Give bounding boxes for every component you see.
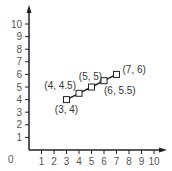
y-tick-label: 8 — [16, 44, 22, 55]
x-tick-label: 5 — [89, 156, 95, 167]
y-axis-arrow-icon — [27, 5, 32, 13]
x-tick-label: 7 — [114, 156, 120, 167]
data-point-label: (3, 4) — [55, 104, 78, 115]
y-tick-label: 2 — [16, 119, 22, 130]
x-tick-label: 1 — [39, 156, 45, 167]
line-chart: 1234567891012345678910 (3, 4)(4, 4.5)(5,… — [0, 0, 172, 171]
y-tick-label: 6 — [16, 69, 22, 80]
origin-label: 0 — [8, 154, 14, 165]
x-tick-label: 8 — [126, 156, 132, 167]
square-marker-icon — [89, 84, 95, 90]
square-marker-icon — [76, 90, 82, 96]
x-tick-label: 10 — [148, 156, 160, 167]
y-tick-label: 10 — [11, 19, 23, 30]
x-tick-label: 6 — [101, 156, 107, 167]
ticks: 1234567891012345678910 — [11, 19, 160, 168]
y-tick-label: 9 — [16, 31, 22, 42]
data-point-label: (4, 4.5) — [44, 80, 76, 91]
square-marker-icon — [64, 97, 70, 103]
data-point-label: (5, 5) — [79, 71, 102, 82]
y-tick-label: 5 — [16, 82, 22, 93]
data-point-label: (7, 6) — [123, 64, 146, 75]
x-tick-label: 4 — [76, 156, 82, 167]
data-point-label: (6, 5.5) — [104, 85, 136, 96]
x-tick-label: 9 — [139, 156, 145, 167]
x-axis-arrow-icon — [159, 148, 167, 153]
y-tick-label: 4 — [16, 94, 22, 105]
point-labels: (3, 4)(4, 4.5)(5, 5)(6, 5.5)(7, 6) — [44, 64, 146, 114]
x-tick-label: 2 — [51, 156, 57, 167]
y-tick-label: 3 — [16, 107, 22, 118]
square-marker-icon — [114, 71, 120, 77]
x-tick-label: 3 — [64, 156, 70, 167]
y-tick-label: 7 — [16, 56, 22, 67]
y-tick-label: 1 — [16, 132, 22, 143]
